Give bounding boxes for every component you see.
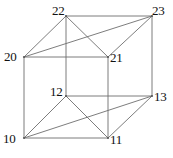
edge-layer	[24, 16, 152, 138]
graph-edge-20-23	[24, 16, 152, 57]
graph-edge-10-12	[24, 96, 66, 138]
graph-vertex-20	[23, 56, 25, 58]
graph-edge-10-13	[24, 96, 152, 138]
vertex-label-12: 12	[50, 85, 63, 98]
graph-vertex-12	[65, 95, 67, 97]
graph-vertex-10	[23, 137, 25, 139]
vertex-label-22: 22	[52, 4, 65, 17]
vertex-label-23: 23	[152, 4, 165, 17]
graph-vertex-13	[151, 95, 153, 97]
graph-vertex-22	[65, 15, 67, 17]
vertex-label-13: 13	[154, 90, 167, 103]
vertex-label-20: 20	[4, 50, 17, 63]
vertex-label-10: 10	[3, 132, 16, 145]
graph-canvas	[0, 0, 173, 158]
cube-graph-figure: 2223202112131011	[0, 0, 173, 158]
vertex-label-11: 11	[110, 133, 122, 146]
graph-vertex-11	[107, 137, 109, 139]
graph-vertex-21	[107, 56, 109, 58]
graph-edge-20-22	[24, 16, 66, 57]
vertex-label-21: 21	[110, 51, 123, 64]
